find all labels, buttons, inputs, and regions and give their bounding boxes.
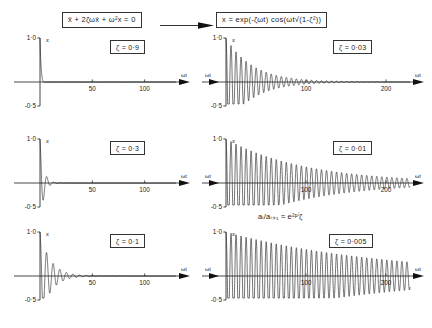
svg-text:100: 100 <box>139 186 150 193</box>
svg-text:-0·5: -0·5 <box>211 102 223 109</box>
equation-solution-text: x = exp(-ζωt) cos(ωt√(1-ζ²)) <box>222 15 321 24</box>
svg-text:ωt: ωt <box>205 265 211 272</box>
zeta-label-middle-left: ζ = 0·3 <box>110 141 145 155</box>
svg-text:1·0: 1·0 <box>27 135 37 142</box>
panel-bottom-left: 501001·0-0·5xωt <box>0 224 200 319</box>
panel-bottom-right: 1002001·0-0·5xωtωt <box>198 224 432 319</box>
svg-text:x: x <box>45 230 49 237</box>
zeta-label-bottom-right: ζ = 0·005 <box>329 234 373 248</box>
svg-text:ωt: ωt <box>181 265 187 272</box>
svg-text:ωt: ωt <box>181 71 187 78</box>
right-arrow-icon <box>160 22 214 29</box>
svg-text:x: x <box>231 36 235 43</box>
svg-text:200: 200 <box>381 85 392 92</box>
svg-text:x: x <box>231 230 235 237</box>
zeta-label-top-left: ζ = 0·9 <box>110 40 145 54</box>
svg-text:ωt: ωt <box>415 265 421 272</box>
svg-text:-0·5: -0·5 <box>25 102 37 109</box>
svg-text:ωt: ωt <box>205 172 211 179</box>
zeta-label-top-right: ζ = 0·03 <box>333 40 372 54</box>
svg-text:x: x <box>45 36 49 43</box>
svg-text:50: 50 <box>89 279 97 286</box>
svg-text:1·0: 1·0 <box>27 228 37 235</box>
svg-text:-0·5: -0·5 <box>211 203 223 210</box>
panel-middle-right: 1002001·0-0·5xωtωt <box>198 131 432 223</box>
svg-text:100: 100 <box>139 85 150 92</box>
svg-text:100: 100 <box>139 279 150 286</box>
figure-root: ẍ + 2ζωẋ + ω²x = 0 x = exp(-ζωt) cos(ωt√… <box>0 0 432 328</box>
svg-text:1·0: 1·0 <box>213 228 223 235</box>
equation-solution-box: x = exp(-ζωt) cos(ωt√(1-ζ²)) <box>216 12 327 28</box>
zeta-label-bottom-left: ζ = 0·1 <box>110 234 145 248</box>
zeta-label-middle-right: ζ = 0·01 <box>333 141 372 155</box>
svg-text:1·0: 1·0 <box>27 34 37 41</box>
svg-text:-0·5: -0·5 <box>211 296 223 303</box>
svg-text:x: x <box>231 137 235 144</box>
equation-ode-box: ẍ + 2ζωẋ + ω²x = 0 <box>62 12 142 28</box>
svg-text:ωt: ωt <box>181 172 187 179</box>
svg-text:-0·5: -0·5 <box>25 296 37 303</box>
svg-text:50: 50 <box>89 186 97 193</box>
svg-text:x: x <box>45 137 49 144</box>
equation-ode-text: ẍ + 2ζωẋ + ω²x = 0 <box>68 15 136 24</box>
svg-text:-0·5: -0·5 <box>25 203 37 210</box>
svg-text:100: 100 <box>301 85 312 92</box>
svg-text:ωt: ωt <box>415 172 421 179</box>
svg-text:1·0: 1·0 <box>213 135 223 142</box>
svg-text:ωt: ωt <box>205 71 211 78</box>
svg-text:ωt: ωt <box>415 71 421 78</box>
svg-text:1·0: 1·0 <box>213 34 223 41</box>
panel-middle-left: 501001·0-0·5xωt <box>0 131 200 223</box>
panel-top-right: 1002001·0-0·5xωtωt <box>198 30 432 122</box>
panel-top-left: 501001·0-0·5xωt <box>0 30 200 122</box>
svg-text:50: 50 <box>89 85 97 92</box>
